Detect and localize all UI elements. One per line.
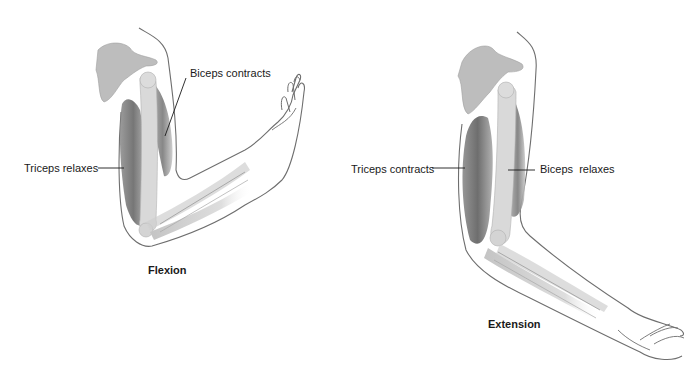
caption-extension: Extension [488,318,541,330]
muscle-antagonist-figure: Triceps relaxes Biceps contracts Flexion… [0,0,694,380]
label-biceps-contracts: Biceps contracts [190,67,271,79]
caption-flexion: Flexion [148,264,187,276]
label-triceps-relaxes: Triceps relaxes [24,162,98,174]
label-triceps-contracts: Triceps contracts [351,163,434,175]
cropped-figure-caption [0,374,300,380]
flexion-arm-drawing [96,28,304,246]
arm-illustrations [0,0,694,380]
extension-arm-drawing [432,32,684,359]
label-biceps-relaxes: Biceps relaxes [540,163,615,175]
